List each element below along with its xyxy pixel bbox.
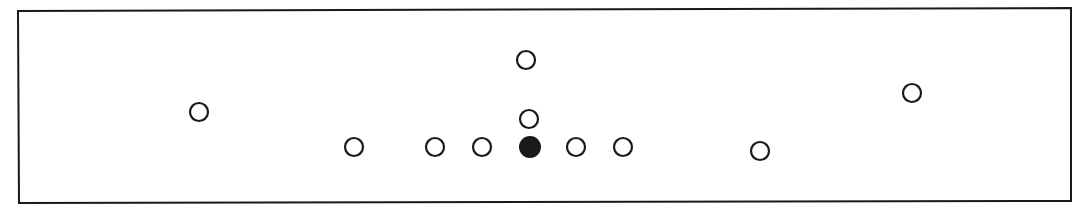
player-markers <box>190 51 921 160</box>
open-circle-marker-right-end <box>751 142 769 160</box>
open-circle-marker-right-tackle <box>614 138 632 156</box>
open-circle-marker-quarterback <box>520 110 538 128</box>
open-circle-marker-right-guard <box>567 138 585 156</box>
open-circle-marker-left-wing <box>190 103 208 121</box>
open-circle-marker-left-guard <box>473 138 491 156</box>
formation-diagram <box>0 0 1083 205</box>
open-circle-marker-right-wing <box>903 84 921 102</box>
filled-circle-marker-center <box>519 136 541 158</box>
field-frame <box>18 8 1071 203</box>
open-circle-marker-deep-back <box>517 51 535 69</box>
open-circle-marker-left-tackle <box>426 138 444 156</box>
open-circle-marker-left-end <box>345 138 363 156</box>
